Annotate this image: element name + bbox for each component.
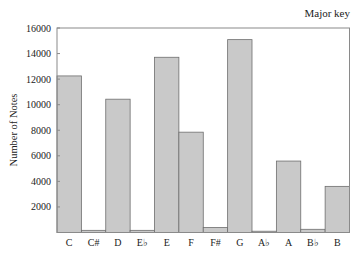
y-axis-title: Number of Notes <box>8 94 19 167</box>
y-axis: 200040006000800010000120001400016000 <box>26 23 60 213</box>
x-tick-label: E <box>164 237 170 248</box>
x-tick-label: E♭ <box>137 237 148 248</box>
bar-D <box>106 99 130 232</box>
bar-G <box>228 40 252 233</box>
bar-chart: Major key Number of Notes 20004000600080… <box>0 0 362 260</box>
x-tick-label: G <box>236 237 243 248</box>
y-tick-label: 6000 <box>31 150 51 161</box>
bar-F# <box>203 228 227 233</box>
bar-A <box>276 161 300 232</box>
y-tick-label: 10000 <box>26 99 51 110</box>
bar-B <box>325 186 349 232</box>
x-tick-label: F# <box>210 237 221 248</box>
y-tick-label: 14000 <box>26 48 51 59</box>
bar-C <box>57 76 81 233</box>
y-tick-label: 12000 <box>26 74 51 85</box>
y-tick-label: 2000 <box>31 201 51 212</box>
bar-F <box>179 132 203 232</box>
x-axis: CC#DE♭EFF#GA♭AB♭B <box>66 237 341 248</box>
x-tick-label: A <box>285 237 293 248</box>
chart-title: Major key <box>304 7 350 19</box>
x-tick-label: C <box>66 237 73 248</box>
x-tick-label: D <box>114 237 121 248</box>
x-tick-label: C# <box>88 237 100 248</box>
y-tick-label: 8000 <box>31 125 51 136</box>
x-tick-label: A♭ <box>258 237 270 248</box>
x-tick-label: B <box>334 237 341 248</box>
y-tick-label: 4000 <box>31 176 51 187</box>
bar-E <box>155 57 179 232</box>
bars-group <box>57 40 350 233</box>
y-tick-label: 16000 <box>26 23 51 34</box>
x-tick-label: F <box>188 237 194 248</box>
x-tick-label: B♭ <box>307 237 319 248</box>
